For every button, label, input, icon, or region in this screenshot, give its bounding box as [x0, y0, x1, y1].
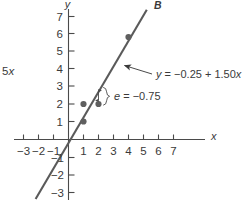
y-tick-marks — [69, 17, 75, 193]
y-tick-label: 6 — [57, 28, 63, 40]
x-tick-label: 7 — [170, 145, 176, 157]
residual-brace — [103, 87, 109, 105]
clipped-edge-text: 5x — [2, 65, 15, 77]
equation-callout-text: y = −0.25 + 1.50x — [155, 68, 242, 80]
equation-var: x — [235, 68, 242, 80]
x-tick-labels: −3 −2 −1 1 2 3 4 5 6 7 — [17, 145, 177, 157]
y-tick-label: 1 — [57, 116, 63, 128]
y-tick-label: 5 — [57, 45, 63, 57]
x-tick-label: 5 — [140, 145, 146, 157]
x-tick-label: −2 — [32, 145, 45, 157]
regression-line-label: B — [154, 0, 162, 11]
x-tick-label: 3 — [110, 145, 116, 157]
y-tick-label: 4 — [57, 63, 64, 75]
plot-canvas: −3 −2 −1 1 2 3 4 5 6 7 7 6 5 4 3 2 1 −1 … — [0, 0, 249, 209]
x-tick-marks — [24, 135, 174, 140]
y-tick-label: −2 — [51, 169, 64, 181]
y-axis-label: y — [64, 0, 72, 10]
y-tick-labels: 7 6 5 4 3 2 1 −1 −2 −3 — [51, 11, 64, 199]
scatter-plot-figure: −3 −2 −1 1 2 3 4 5 6 7 7 6 5 4 3 2 1 −1 … — [0, 0, 249, 209]
data-point — [95, 101, 101, 107]
data-point — [80, 118, 86, 124]
y-tick-label: 3 — [57, 80, 63, 92]
x-axis-label: x — [210, 130, 217, 142]
y-tick-label: −3 — [51, 187, 64, 199]
residual-value: −0.75 — [133, 90, 161, 102]
y-tick-label: −1 — [51, 152, 64, 164]
x-tick-label: −3 — [17, 145, 30, 157]
residual-callout-text: e = −0.75 — [114, 90, 161, 102]
equation-callout-leader — [125, 66, 153, 75]
x-tick-label: 6 — [155, 145, 161, 157]
axes-group — [14, 9, 205, 200]
equation-rhs: −0.25 + 1.50 — [174, 68, 236, 80]
x-tick-label: 1 — [80, 145, 86, 157]
edge-fragment-var: x — [7, 65, 15, 77]
x-tick-label: 2 — [95, 145, 101, 157]
x-tick-label: 4 — [125, 145, 132, 157]
data-point — [125, 34, 131, 40]
callout-arrow — [125, 66, 153, 75]
data-point — [80, 101, 86, 107]
y-tick-label: 7 — [57, 11, 63, 23]
y-tick-label: 2 — [57, 98, 63, 110]
